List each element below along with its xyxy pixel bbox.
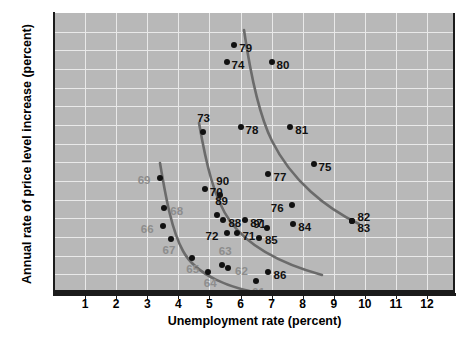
data-point-label: 71 [242, 231, 255, 242]
y-axis-line [53, 12, 55, 296]
y-axis-title: Annual rate of price level increase (per… [20, 9, 34, 299]
data-point-label: 68 [170, 206, 183, 217]
data-point-label: 81 [295, 125, 308, 136]
data-point-label: 74 [232, 60, 245, 71]
data-point [160, 223, 166, 229]
data-point [311, 161, 317, 167]
data-point [214, 212, 220, 218]
data-point-label: 72 [206, 231, 219, 242]
data-point-label: 86 [273, 270, 286, 281]
data-point-label: 67 [163, 245, 176, 256]
data-point-label: 62 [235, 266, 248, 277]
data-point [224, 230, 230, 236]
x-axis-tick [241, 294, 242, 299]
x-tick-label: 2 [106, 297, 126, 311]
x-tick-label: 11 [386, 297, 406, 311]
x-tick-label: 3 [137, 297, 157, 311]
x-axis-tick [272, 294, 273, 299]
data-point [231, 42, 237, 48]
data-point [168, 236, 174, 242]
data-point-label: 75 [319, 162, 332, 173]
x-tick-label: 10 [355, 297, 375, 311]
x-tick-label: 12 [417, 297, 437, 311]
x-tick-label: 5 [199, 297, 219, 311]
x-tick-label: 9 [324, 297, 344, 311]
x-axis-tick [427, 294, 428, 299]
data-point-label: 73 [197, 113, 210, 124]
data-point-label: 88 [228, 218, 241, 229]
x-axis-tick [116, 294, 117, 299]
data-point-label: 84 [298, 222, 311, 233]
data-point-label: 90 [216, 176, 229, 187]
data-point [269, 59, 275, 65]
x-tick-label: 7 [262, 297, 282, 311]
x-axis-tick [365, 294, 366, 299]
data-point [157, 175, 163, 181]
data-point [219, 262, 225, 268]
x-axis-tick [334, 294, 335, 299]
data-point-label: 66 [141, 224, 154, 235]
x-axis-tick [147, 294, 148, 299]
data-point-label: 79 [239, 43, 252, 54]
x-axis-tick [396, 294, 397, 299]
x-axis-tick [85, 294, 86, 299]
data-point [200, 129, 206, 135]
x-axis-tick [303, 294, 304, 299]
plot-area: 6162636465666768697071727374757677787980… [54, 13, 455, 293]
x-axis-tick [178, 294, 179, 299]
x-axis-title: Unemployment rate (percent) [54, 314, 455, 328]
data-point-label: 85 [265, 235, 278, 246]
data-point-label: 91 [253, 219, 266, 230]
data-point-label: 65 [186, 264, 199, 275]
data-point-label: 69 [138, 175, 151, 186]
data-point-label: 63 [219, 246, 232, 257]
data-point-label: 64 [204, 278, 217, 289]
data-point [205, 269, 211, 275]
fitted-curves [54, 13, 455, 293]
data-point-label: 78 [246, 125, 259, 136]
data-point-label: 76 [271, 203, 284, 214]
data-point [238, 124, 244, 130]
data-point-label: 77 [273, 172, 286, 183]
x-tick-label: 1 [75, 297, 95, 311]
phillips-curve-chart: 6162636465666768697071727374757677787980… [0, 0, 474, 337]
data-point-label: 80 [277, 60, 290, 71]
data-point [225, 265, 231, 271]
x-tick-label: 4 [168, 297, 188, 311]
data-point [253, 278, 259, 284]
x-axis-tick [209, 294, 210, 299]
x-tick-label: 6 [231, 297, 251, 311]
x-tick-label: 8 [293, 297, 313, 311]
data-point-label: 83 [357, 223, 370, 234]
